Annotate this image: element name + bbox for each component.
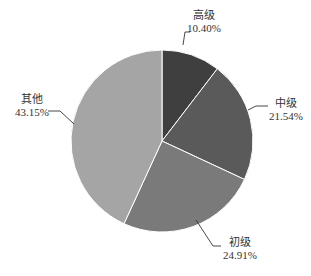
label-zhongji-name: 中级 bbox=[262, 97, 310, 110]
label-gaoji-name: 高级 bbox=[176, 9, 232, 22]
label-chuji-name: 初级 bbox=[216, 236, 264, 249]
label-chuji: 初级 24.91% bbox=[216, 236, 264, 262]
label-qita-pct: 43.15% bbox=[8, 106, 56, 119]
pie-chart bbox=[0, 0, 311, 276]
label-gaoji-pct: 10.40% bbox=[176, 22, 232, 35]
label-gaoji: 高级 10.40% bbox=[176, 9, 232, 35]
label-chuji-pct: 24.91% bbox=[216, 249, 264, 262]
label-zhongji-pct: 21.54% bbox=[262, 110, 310, 123]
label-qita: 其他 43.15% bbox=[8, 93, 56, 119]
label-qita-name: 其他 bbox=[8, 93, 56, 106]
label-zhongji: 中级 21.54% bbox=[262, 97, 310, 123]
pie-slices bbox=[71, 50, 253, 232]
